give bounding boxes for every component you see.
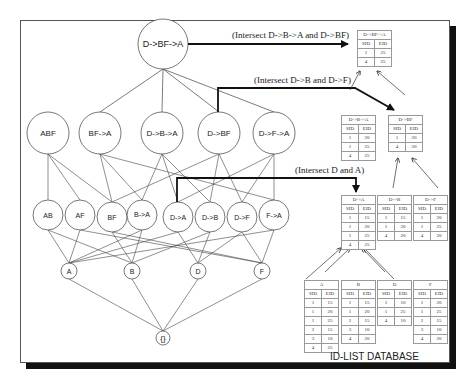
- cell: 1: [305, 317, 322, 326]
- node-label: B: [130, 268, 135, 275]
- cell: 25: [359, 232, 376, 241]
- table-title: D->F: [414, 196, 448, 205]
- col-header: EID: [431, 290, 448, 299]
- cell: 10: [395, 317, 412, 326]
- cell: 25: [431, 308, 448, 317]
- table-title: F: [414, 281, 448, 290]
- col-header: EID: [375, 40, 392, 49]
- node-label: D->A: [170, 214, 186, 221]
- cell: 4: [378, 317, 395, 326]
- cell: 3: [414, 326, 431, 335]
- table-title: D->BF->A: [358, 31, 392, 40]
- node-label: AF: [76, 212, 85, 219]
- cell: 15: [359, 299, 376, 308]
- cell: 15: [395, 214, 412, 223]
- col-header: SID: [414, 290, 431, 299]
- node-label: A: [67, 268, 72, 275]
- cell: 1: [378, 308, 395, 317]
- cell: 1: [414, 308, 431, 317]
- col-header: SID: [378, 205, 395, 214]
- cell: 10: [322, 335, 339, 344]
- cell: 20: [359, 134, 376, 143]
- cell: 1: [389, 134, 406, 143]
- cell: 1: [378, 299, 395, 308]
- col-header: EID: [431, 205, 448, 214]
- cell: 20: [406, 134, 423, 143]
- node-top-label: D->BF->A: [143, 39, 184, 49]
- table-d-bf-a: D->BF->A SIDEID 125 425: [357, 30, 392, 67]
- col-header: EID: [359, 290, 376, 299]
- col-header: SID: [305, 290, 322, 299]
- table-d-b: D->B SIDEID 115 120 420: [377, 195, 412, 241]
- cell: 15: [322, 326, 339, 335]
- cell: 15: [359, 214, 376, 223]
- cell: 20: [359, 223, 376, 232]
- cell: 10: [431, 326, 448, 335]
- edges-top: [100, 69, 274, 112]
- cell: 20: [322, 308, 339, 317]
- cell: 20: [431, 232, 448, 241]
- cell: 4: [389, 143, 406, 152]
- cell: 2: [342, 317, 359, 326]
- cell: 1: [342, 223, 359, 232]
- node-label: F: [260, 268, 264, 275]
- cell: 4: [342, 241, 359, 250]
- cell: 1: [378, 214, 395, 223]
- node-label: F->A: [266, 212, 282, 219]
- table-d-f: D->F SIDEID 120 125 420: [413, 195, 448, 241]
- table-d-b-a: D->B->A SIDEID 120 125 425: [341, 115, 376, 161]
- cell: 1: [342, 214, 359, 223]
- cell: 4: [358, 58, 375, 67]
- node-label: {}: [160, 334, 166, 343]
- col-header: SID: [342, 290, 359, 299]
- cell: 1: [378, 223, 395, 232]
- cell: 10: [395, 299, 412, 308]
- cell: 20: [395, 232, 412, 241]
- cell: 20: [359, 335, 376, 344]
- cell: 25: [359, 152, 376, 161]
- table-title: D: [378, 281, 412, 290]
- cell: 20: [395, 223, 412, 232]
- cell: 1: [305, 308, 322, 317]
- col-header: SID: [342, 125, 359, 134]
- table-a: A SIDEID 115 120 125 215 310 425: [304, 280, 339, 353]
- col-header: EID: [322, 290, 339, 299]
- cell: 2: [305, 326, 322, 335]
- cell: 20: [406, 143, 423, 152]
- node-label: D->B: [202, 214, 218, 221]
- cell: 20: [431, 299, 448, 308]
- lattice-graph: D->BF->A ABF BF->A D->B->A D->BF D->F->A…: [0, 0, 471, 385]
- node-label: B->A: [134, 211, 150, 218]
- cell: 1: [414, 214, 431, 223]
- cell: 1: [342, 308, 359, 317]
- table-d-a: D->A SIDEID 115 120 125 425: [341, 195, 376, 250]
- cell: 10: [359, 326, 376, 335]
- col-header: SID: [378, 290, 395, 299]
- cell: 1: [414, 299, 431, 308]
- node-label: BF->A: [89, 129, 113, 138]
- cell: 4: [305, 344, 322, 353]
- cell: 20: [431, 335, 448, 344]
- edges-l1-l0: [48, 230, 274, 263]
- node-label: BF: [108, 214, 117, 221]
- cell: 25: [322, 317, 339, 326]
- col-header: SID: [414, 205, 431, 214]
- table-b: B SIDEID 115 120 215 310 420: [341, 280, 376, 344]
- table-title: B: [342, 281, 376, 290]
- node-label: ABF: [40, 129, 56, 138]
- cell: 1: [342, 299, 359, 308]
- annotation-intersect-top: (Intersect D->B->A and D->BF): [232, 30, 349, 40]
- cell: 25: [359, 143, 376, 152]
- cell: 25: [395, 308, 412, 317]
- table-d: D SIDEID 110 125 410: [377, 280, 412, 326]
- cell: 4: [342, 152, 359, 161]
- table-title: D->BF: [389, 116, 423, 125]
- col-header: EID: [395, 205, 412, 214]
- col-header: EID: [359, 125, 376, 134]
- cell: 1: [414, 223, 431, 232]
- table-f: F SIDEID 120 125 215 310 420: [413, 280, 448, 344]
- cell: 4: [414, 335, 431, 344]
- cell: 1: [342, 134, 359, 143]
- node-label: D->F: [234, 214, 250, 221]
- cell: 15: [431, 317, 448, 326]
